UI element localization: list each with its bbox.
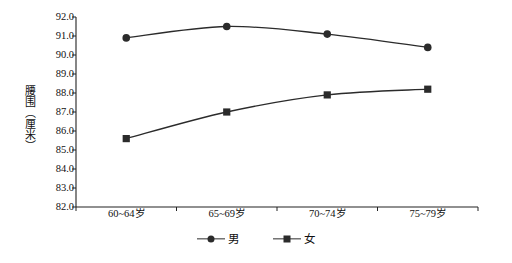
data-point-女-70~74岁 [324, 91, 331, 98]
x-axis-tick-label: 60~64岁 [108, 208, 145, 220]
series-line-男 [126, 26, 428, 47]
data-point-女-75~79岁 [424, 86, 431, 93]
legend-swatch-square-icon [273, 233, 301, 245]
legend-item-男[interactable]: 男 [197, 233, 239, 245]
data-point-男-75~79岁 [424, 44, 432, 52]
legend-item-女[interactable]: 女 [273, 233, 315, 245]
series-line-女 [126, 89, 428, 138]
plot-area [0, 0, 512, 263]
data-point-男-65~69岁 [223, 23, 231, 31]
legend-swatch-circle-icon [197, 233, 225, 245]
data-point-男-70~74岁 [323, 30, 331, 38]
data-point-女-60~64岁 [123, 135, 130, 142]
waist-circumference-line-chart: 腰围（厘米） 92.091.090.089.088.087.086.085.08… [0, 0, 512, 263]
legend-label: 男 [228, 233, 239, 245]
x-axis-tick-label: 65~69岁 [208, 208, 245, 220]
x-axis-tick-label: 70~74岁 [309, 208, 346, 220]
legend-label: 女 [304, 233, 315, 245]
x-axis-tick-label: 75~79岁 [409, 208, 446, 220]
chart-legend: 男女 [0, 233, 512, 245]
data-point-女-65~69岁 [223, 108, 230, 115]
data-point-男-60~64岁 [122, 34, 130, 42]
